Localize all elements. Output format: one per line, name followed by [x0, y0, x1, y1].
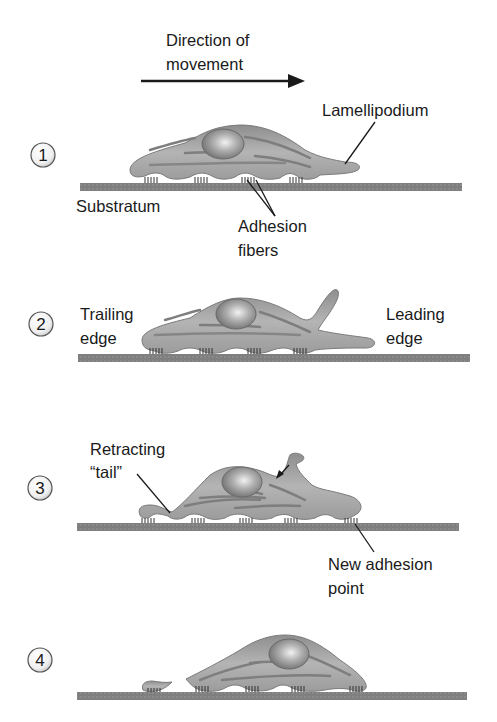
substratum-bar [78, 354, 470, 362]
step-number: 4 [35, 651, 44, 670]
step-1: 1 Lamellipodium Substratum Adhesion fibe… [31, 101, 462, 259]
leading-edge-label-line2: edge [386, 329, 423, 347]
nucleus [222, 467, 262, 497]
cell-body [142, 290, 375, 354]
cell-body [139, 453, 361, 519]
detached-tail-fragment [142, 681, 172, 692]
direction-label-line2: movement [166, 55, 243, 73]
step-2: 2 Trailing edge Leading edge [29, 290, 470, 362]
nucleus [202, 129, 244, 159]
substratum-bar [80, 183, 462, 191]
nucleus [269, 639, 309, 669]
adhesion-label-line2: fibers [238, 241, 278, 259]
retracting-tail-label-line2: “tail” [90, 463, 122, 481]
lamellipodium-pointer [345, 122, 375, 164]
substratum-label: Substratum [76, 197, 160, 215]
direction-arrow-icon [141, 74, 305, 88]
step-number-badge: 1 [31, 143, 55, 167]
step-number-badge: 3 [28, 476, 52, 500]
nucleus [216, 299, 256, 329]
cell-body [130, 125, 359, 179]
leading-edge-label-line1: Leading [386, 305, 445, 323]
step-number: 2 [36, 315, 45, 334]
retracting-tail-label-line1: Retracting [90, 440, 165, 458]
trailing-edge-label-line1: Trailing [80, 305, 134, 323]
step-number-badge: 4 [28, 648, 52, 672]
step-number-badge: 2 [29, 312, 53, 336]
direction-label-line1: Direction of [166, 31, 250, 49]
direction-header: Direction of movement [141, 31, 305, 88]
new-adhesion-label-line2: point [328, 579, 364, 597]
cell-body [186, 635, 366, 691]
step-number: 3 [35, 479, 44, 498]
substratum-bar [77, 692, 467, 700]
substratum-bar [77, 523, 459, 531]
step-4: 4 [28, 635, 467, 700]
adhesion-label-line1: Adhesion [238, 217, 307, 235]
trailing-edge-label-line2: edge [80, 329, 117, 347]
step-3: 3 Retracting “tail” New adhesion poi [28, 440, 459, 597]
step-number: 1 [38, 146, 47, 165]
cell-migration-diagram: Direction of movement 1 Lamellipo [0, 0, 497, 722]
new-adhesion-label-line1: New adhesion [328, 555, 433, 573]
lamellipodium-label: Lamellipodium [322, 101, 428, 119]
